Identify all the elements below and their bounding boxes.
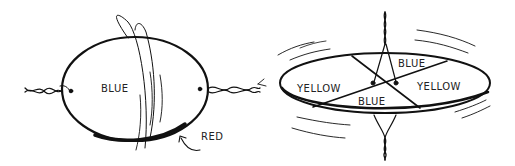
left-disk bbox=[25, 15, 260, 150]
right-bottom-sector-label: BLUE bbox=[358, 96, 386, 107]
spinning-disks-drawing: BLUE RED BLUE BLUE YELLOW YELLOW bbox=[0, 0, 515, 166]
right-top-sector-label: BLUE bbox=[398, 58, 426, 69]
right-right-sector-label: YELLOW bbox=[416, 81, 461, 92]
left-face-label: BLUE bbox=[101, 83, 129, 94]
left-edge-label: RED bbox=[201, 131, 223, 142]
illustration: BLUE RED BLUE BLUE YELLOW YELLOW bbox=[0, 0, 515, 166]
right-left-sector-label: YELLOW bbox=[296, 83, 341, 94]
